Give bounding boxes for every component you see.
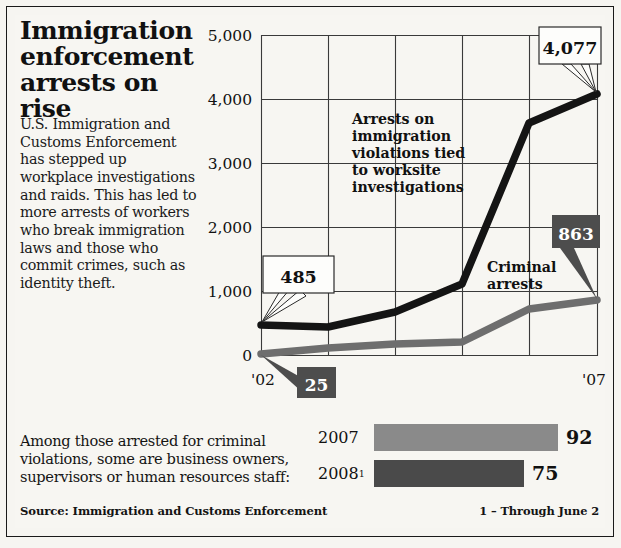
series-label-criminal: Criminal arrests (487, 259, 557, 292)
callout-863: 863 (552, 215, 600, 299)
y-axis-labels: 5,000 4,000 3,000 2,000 1,000 0 (208, 27, 252, 365)
series-label-criminal-line-2: arrests (487, 276, 543, 292)
series-label-immigration: Arrests on immigration violations tied t… (351, 111, 465, 195)
line-chart: 5,000 4,000 3,000 2,000 1,000 0 (0, 0, 621, 410)
y-tick-4000: 4,000 (208, 91, 252, 109)
bar-fill-2008 (374, 460, 524, 487)
series-label-immigration-line-2: immigration (352, 128, 451, 144)
y-tick-0: 0 (242, 347, 252, 365)
bar-value-2007: 92 (566, 422, 592, 452)
bottom-section: Among those arrested for criminal violat… (0, 408, 621, 548)
y-tick-3000: 3,000 (208, 155, 252, 173)
bar-chart: 2007 92 20081 75 (318, 418, 608, 496)
bar-fill-2007 (374, 424, 558, 451)
x-tick-07: '07 (582, 371, 606, 389)
y-tick-5000: 5,000 (208, 27, 252, 45)
x-tick-02: '02 (251, 371, 275, 389)
callout-4077: 4,077 (539, 27, 601, 92)
callout-4077-value: 4,077 (543, 38, 598, 58)
bar-row-2008: 20081 75 (318, 458, 608, 488)
bar-label-2008: 20081 (318, 458, 372, 488)
infographic-page: Immigration enforcement arrests on rise … (0, 0, 621, 548)
bar-label-2007: 2007 (318, 422, 372, 452)
series-label-immigration-line-4: to worksite (352, 162, 441, 178)
bottom-intro-text: Among those arrested for criminal violat… (20, 432, 315, 485)
series-label-immigration-line-3: violations tied (351, 145, 465, 161)
bar-value-2008: 75 (532, 458, 558, 488)
callout-863-value: 863 (558, 224, 594, 244)
callout-485-value: 485 (280, 267, 317, 287)
y-tick-1000: 1,000 (208, 283, 252, 301)
series-label-criminal-line-1: Criminal (487, 259, 557, 275)
footnote-note: 1 – Through June 2 (479, 504, 599, 518)
line-chart-svg: 5,000 4,000 3,000 2,000 1,000 0 (0, 0, 621, 410)
y-tick-2000: 2,000 (208, 219, 252, 237)
bar-label-2008-text: 2008 (318, 464, 359, 483)
source-note: Source: Immigration and Customs Enforcem… (20, 504, 327, 518)
bar-row-2007: 2007 92 (318, 422, 608, 452)
callout-485: 485 (262, 256, 334, 322)
callout-25-value: 25 (305, 375, 329, 395)
series-label-immigration-line-5: investigations (352, 179, 464, 195)
bar-label-2008-footnote-marker: 1 (359, 468, 365, 479)
series-label-immigration-line-1: Arrests on (351, 111, 434, 127)
